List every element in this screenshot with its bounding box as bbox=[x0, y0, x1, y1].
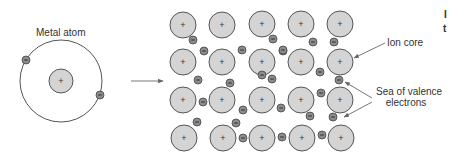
ion-core: + bbox=[209, 49, 235, 75]
ion-core: + bbox=[289, 125, 315, 151]
positive-charge-icon: + bbox=[298, 95, 303, 105]
ion-core: + bbox=[170, 12, 196, 38]
positive-charge-icon: + bbox=[58, 76, 63, 86]
positive-charge-icon: + bbox=[259, 57, 264, 67]
valence-electron bbox=[330, 38, 338, 46]
sea-of-valence-label: Sea of valence electrons bbox=[376, 86, 436, 108]
ion-core: + bbox=[170, 87, 196, 113]
valence-electron bbox=[329, 113, 337, 121]
edge-text-fragment-1: I bbox=[444, 9, 447, 20]
ion-core: + bbox=[328, 125, 354, 151]
positive-charge-icon: + bbox=[219, 95, 224, 105]
valence-electron bbox=[226, 79, 234, 87]
positive-charge-icon: + bbox=[181, 133, 186, 143]
positive-charge-icon: + bbox=[337, 57, 342, 67]
ion-core: + bbox=[327, 87, 353, 113]
positive-charge-icon: + bbox=[259, 19, 264, 29]
valence-electron bbox=[278, 133, 286, 141]
valence-electron bbox=[279, 46, 287, 54]
valence-electron bbox=[268, 75, 276, 83]
valence-electron bbox=[238, 46, 246, 54]
positive-charge-icon: + bbox=[219, 57, 224, 67]
positive-charge-icon: + bbox=[180, 95, 185, 105]
edge-text-fragment-2: t bbox=[443, 23, 446, 34]
ion-core: + bbox=[170, 49, 196, 75]
valence-electron bbox=[239, 106, 247, 114]
positive-charge-icon: + bbox=[298, 19, 303, 29]
valence-electron bbox=[199, 98, 207, 106]
positive-charge-icon: + bbox=[180, 57, 185, 67]
positive-charge-icon: + bbox=[259, 133, 264, 143]
ion-core: + bbox=[327, 49, 353, 75]
positive-charge-icon: + bbox=[299, 133, 304, 143]
ion-core: + bbox=[209, 12, 235, 38]
valence-electron bbox=[317, 89, 325, 97]
valence-electron bbox=[277, 104, 285, 112]
metal-atom-label: Metal atom bbox=[36, 27, 85, 38]
valence-electron bbox=[318, 131, 326, 139]
valence-electron bbox=[232, 119, 240, 127]
ion-core: + bbox=[288, 49, 314, 75]
metallic-bonding-diagram: + ++++++++++++++++++++ bbox=[0, 0, 449, 160]
ion-core: + bbox=[288, 87, 314, 113]
valence-electron bbox=[309, 38, 317, 46]
metal-atom-diagram: + bbox=[20, 40, 104, 122]
valence-electron bbox=[194, 76, 202, 84]
valence-electron bbox=[200, 47, 208, 55]
ion-core-label: Ion core bbox=[387, 37, 423, 48]
positive-charge-icon: + bbox=[337, 95, 342, 105]
ion-core: + bbox=[288, 11, 314, 37]
ion-core: + bbox=[249, 11, 275, 37]
valence-electron bbox=[239, 134, 247, 142]
ion-core: + bbox=[209, 87, 235, 113]
sea-of-valence-line1: Sea of valence bbox=[376, 86, 436, 97]
valence-electron bbox=[269, 35, 277, 43]
positive-charge-icon: + bbox=[180, 20, 185, 30]
positive-charge-icon: + bbox=[259, 95, 264, 105]
valence-electron bbox=[189, 36, 197, 44]
positive-charge-icon: + bbox=[337, 19, 342, 29]
valence-electron bbox=[335, 76, 343, 84]
positive-charge-icon: + bbox=[220, 133, 225, 143]
positive-charge-icon: + bbox=[219, 20, 224, 30]
ion-core: + bbox=[210, 125, 236, 151]
ion-core: + bbox=[249, 87, 275, 113]
positive-charge-icon: + bbox=[298, 57, 303, 67]
valence-electron bbox=[306, 112, 314, 120]
ion-core: + bbox=[171, 125, 197, 151]
valence-electron bbox=[193, 118, 201, 126]
ion-core: + bbox=[249, 125, 275, 151]
ion-core: + bbox=[327, 11, 353, 37]
nucleus: + bbox=[49, 69, 73, 93]
positive-charge-icon: + bbox=[338, 133, 343, 143]
valence-electron bbox=[258, 71, 266, 79]
orbit-electron bbox=[22, 56, 30, 64]
metal-lattice: ++++++++++++++++++++ bbox=[170, 11, 354, 151]
valence-electron bbox=[316, 68, 324, 76]
orbit-electron bbox=[96, 91, 104, 99]
sea-of-valence-line2: electrons bbox=[376, 97, 436, 108]
ion-core-pointer-arrow bbox=[354, 43, 385, 58]
